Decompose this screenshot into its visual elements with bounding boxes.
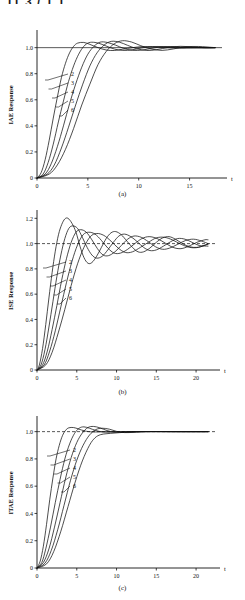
series-label-2: 2 (73, 447, 76, 453)
y-tick-label: 0.6 (26, 97, 34, 103)
series-label-5: 5 (73, 474, 76, 480)
x-axis-label: t (224, 565, 226, 572)
y-tick-label: 0.6 (26, 291, 34, 297)
y-tick-label: 0.8 (26, 266, 34, 272)
y-tick-label: 0 (30, 565, 33, 571)
figure-panel-b: 00.20.40.60.81.01.205101520ISE Responset… (0, 202, 245, 400)
y-axis-label: IAE Response (7, 85, 14, 124)
leader-line-5 (61, 477, 71, 483)
series-label-6: 6 (69, 295, 72, 301)
series-label-2: 2 (71, 71, 74, 77)
y-tick-label: 1.0 (26, 429, 34, 435)
x-tick-label: 10 (114, 573, 120, 579)
plot-group: 00.20.40.60.81.01.205101520ISE Responset… (7, 210, 226, 381)
scanned-page: 11.3 / 1.1 00.20.40.60.81.0051015IAE Res… (0, 0, 245, 600)
plot-c-canvas: 00.20.40.60.81.005101520ITAE Responset23… (0, 404, 245, 594)
plot-group: 00.20.40.60.81.005101520ITAE Responset23… (7, 416, 226, 579)
series-label-6: 6 (71, 107, 74, 113)
y-tick-label: 0.6 (26, 483, 34, 489)
curve-series-3 (37, 427, 208, 568)
leader-line-4 (53, 280, 66, 286)
leader-line-2 (50, 450, 70, 456)
x-tick-label: 5 (75, 375, 78, 381)
x-axis-label: t (231, 175, 233, 182)
y-tick-label: 0.2 (26, 342, 34, 348)
x-tick-label: 0 (36, 573, 39, 579)
series-label-5: 5 (69, 286, 72, 292)
y-tick-label: 1.0 (26, 241, 34, 247)
series-label-3: 3 (73, 456, 76, 462)
y-tick-label: 0.8 (26, 456, 34, 462)
x-tick-label: 10 (114, 375, 120, 381)
series-label-6: 6 (73, 483, 76, 489)
x-tick-label: 15 (153, 375, 159, 381)
y-tick-label: 0.4 (26, 317, 34, 323)
curve-series-2 (37, 218, 208, 370)
plot-b-canvas: 00.20.40.60.81.01.205101520ISE Responset… (0, 202, 245, 400)
x-tick-label: 5 (86, 183, 89, 189)
plot-a-canvas: 00.20.40.60.81.0051015IAE Responset23456 (0, 18, 245, 200)
figure-caption-c: (c) (0, 584, 245, 592)
plot-group: 00.20.40.60.81.0051015IAE Responset23456 (7, 30, 233, 189)
plot-c: 00.20.40.60.81.005101520ITAE Responset23… (0, 404, 245, 594)
figure-caption-a: (a) (0, 190, 245, 198)
y-tick-label: 0.4 (26, 123, 34, 129)
curve-series-4 (37, 42, 215, 178)
series-label-4: 4 (69, 277, 72, 283)
leader-line-6 (64, 486, 70, 492)
curve-series-5 (37, 428, 208, 568)
curve-series-2 (37, 427, 208, 568)
curve-series-3 (37, 42, 215, 178)
plot-b: 00.20.40.60.81.01.205101520ISE Responset… (0, 202, 245, 400)
leader-line-2 (46, 262, 66, 268)
curve-series-2 (37, 42, 215, 178)
leader-line-4 (55, 92, 68, 98)
curve-series-6 (37, 41, 215, 178)
plot-a: 00.20.40.60.81.0051015IAE Responset23456 (0, 18, 245, 200)
curve-series-5 (37, 41, 215, 178)
series-label-3: 3 (71, 80, 74, 86)
series-label-5: 5 (71, 98, 74, 104)
y-tick-label: 0 (30, 367, 33, 373)
x-tick-label: 0 (36, 183, 39, 189)
y-tick-label: 0.8 (26, 71, 34, 77)
x-tick-label: 20 (193, 375, 199, 381)
x-tick-label: 15 (187, 183, 193, 189)
y-tick-label: 0 (30, 175, 33, 181)
series-label-4: 4 (71, 89, 74, 95)
x-tick-label: 10 (136, 183, 142, 189)
y-axis-label: ITAE Response (7, 471, 14, 514)
series-label-4: 4 (73, 465, 76, 471)
y-tick-label: 1.2 (26, 216, 34, 222)
page-header: 11.3 / 1.1 (6, 0, 65, 4)
x-tick-label: 15 (153, 573, 159, 579)
series-label-3: 3 (69, 268, 72, 274)
x-tick-label: 5 (75, 573, 78, 579)
x-tick-label: 20 (193, 573, 199, 579)
y-tick-label: 1.0 (26, 45, 34, 51)
y-tick-label: 0.2 (26, 149, 34, 155)
x-tick-label: 0 (36, 375, 39, 381)
leader-line-2 (48, 74, 68, 80)
figure-caption-b: (b) (0, 388, 245, 396)
figure-panel-c: 00.20.40.60.81.005101520ITAE Responset23… (0, 404, 245, 594)
series-label-2: 2 (69, 259, 72, 265)
y-axis-label: ISE Response (7, 272, 14, 310)
y-tick-label: 0.4 (26, 511, 34, 517)
leader-line-4 (57, 468, 70, 474)
figure-panel-a: 00.20.40.60.81.0051015IAE Responset23456… (0, 18, 245, 200)
curve-series-4 (37, 426, 208, 568)
y-tick-label: 0.2 (26, 538, 34, 544)
x-axis-label: t (224, 367, 226, 374)
